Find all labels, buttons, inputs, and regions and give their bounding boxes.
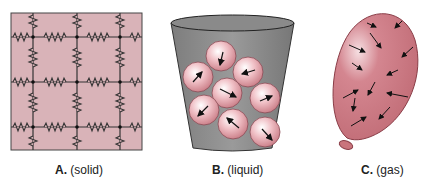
gas-balloon — [333, 14, 418, 151]
label-solid: A. (solid) — [55, 163, 103, 177]
panel-state: (liquid) — [227, 163, 263, 177]
label-liquid: B. (liquid) — [212, 163, 263, 177]
liquid-cup — [171, 15, 294, 151]
panel-state: (solid) — [70, 163, 103, 177]
panel-letter: A. — [55, 163, 67, 177]
solid-lattice — [11, 13, 142, 150]
states-of-matter-diagram — [0, 0, 436, 184]
panel-letter: B. — [212, 163, 224, 177]
panel-state: (gas) — [376, 163, 403, 177]
panel-letter: C. — [361, 163, 373, 177]
label-gas: C. (gas) — [361, 163, 404, 177]
